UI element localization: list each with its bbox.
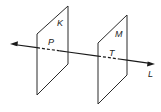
point-p-label: P [48, 37, 54, 47]
arrowhead-left-icon [10, 41, 18, 46]
line-l-label: L [148, 69, 153, 79]
arrowhead-right-icon [147, 62, 155, 67]
plane-m-label: M [115, 29, 123, 39]
plane-k [37, 6, 68, 95]
line-l-middle-segment [68, 52, 98, 56]
two-planes-line-diagram: K M P T L [0, 0, 161, 112]
line-l-right-segment [127, 60, 150, 63]
plane-k-label: K [57, 18, 64, 28]
